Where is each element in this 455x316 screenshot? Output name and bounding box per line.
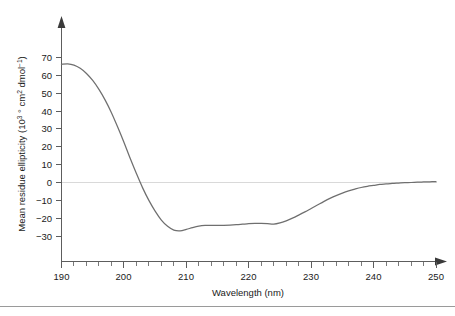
y-tick-label: −10 — [36, 195, 52, 206]
y-axis-title-close: ) — [16, 56, 27, 59]
y-tick-label: −30 — [36, 231, 52, 242]
x-tick-label: 230 — [303, 271, 319, 282]
figure-page: 70 60 50 40 30 20 10 0 −10 −20 −30 — [0, 0, 455, 316]
y-axis-title: Mean residue ellipticity (103 ° cm2 dmol… — [16, 56, 28, 232]
y-tick-label: −20 — [36, 213, 52, 224]
cd-spectrum-chart: 70 60 50 40 30 20 10 0 −10 −20 −30 — [0, 0, 455, 316]
x-tick-label: 240 — [366, 271, 382, 282]
y-tick-label: 10 — [41, 159, 52, 170]
x-tick-label: 250 — [428, 271, 444, 282]
y-tick-label: 60 — [41, 70, 52, 81]
x-tick-label: 190 — [54, 271, 70, 282]
x-tick-label: 210 — [178, 271, 194, 282]
y-tick-label: 40 — [41, 106, 52, 117]
y-tick-label: 30 — [41, 123, 52, 134]
y-axis-title-tail: dmol — [16, 67, 27, 90]
x-tick-label: 200 — [116, 271, 132, 282]
x-axis-title: Wavelength (nm) — [212, 287, 284, 298]
y-tick-label: 50 — [41, 88, 52, 99]
y-tick-label: 0 — [47, 177, 52, 188]
y-axis-title-main: Mean residue ellipticity (10 — [16, 119, 27, 231]
y-tick-label: 20 — [41, 141, 52, 152]
chart-background — [0, 0, 455, 316]
x-tick-label: 220 — [241, 271, 257, 282]
y-axis-title-mid: ° cm — [16, 94, 27, 116]
y-tick-label: 70 — [41, 52, 52, 63]
